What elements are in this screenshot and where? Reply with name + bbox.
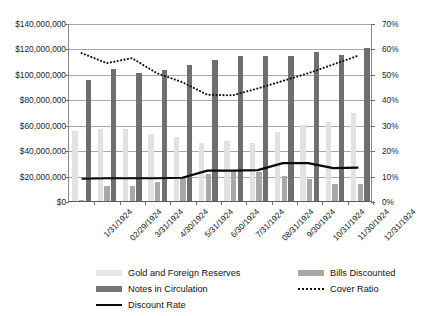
y-axis-right-tick-label: 70% (382, 20, 399, 28)
y-axis-left-tick-label: $80,000,000 (4, 96, 66, 104)
line-series-overlay (69, 24, 371, 201)
legend-swatch-gold-icon (96, 270, 122, 276)
y-axis-right-tick-label: 60% (382, 45, 399, 53)
discount-rate-line (82, 163, 359, 179)
x-axis-tick (322, 201, 323, 205)
y-axis-right-tick-label: 40% (382, 96, 399, 104)
x-axis-tick (272, 201, 273, 205)
legend-label: Notes in Circulation (128, 284, 208, 294)
legend-dotted-line-icon (298, 288, 324, 290)
y-axis-left: $0$20,000,000$40,000,000$60,000,000$80,0… (0, 0, 66, 210)
x-axis-tick (170, 201, 171, 205)
y-axis-right-tick-label: 0% (382, 198, 394, 206)
chart-container: $0$20,000,000$40,000,000$60,000,000$80,0… (0, 0, 425, 316)
x-axis-tick (94, 201, 95, 205)
legend-label: Bills Discounted (330, 268, 395, 278)
x-axis-tick (297, 201, 298, 205)
legend-solid-line-icon (96, 304, 122, 307)
legend-item-bills-discounted: Bills Discounted (298, 268, 395, 278)
y-axis-left-tick-label: $40,000,000 (4, 147, 66, 155)
legend-item-cover-ratio: Cover Ratio (298, 284, 379, 294)
x-axis-tick (145, 201, 146, 205)
legend-swatch-bills-icon (298, 270, 324, 276)
x-axis-tick (246, 201, 247, 205)
y-axis-right-tick-label: 30% (382, 122, 399, 130)
legend-label: Discount Rate (128, 300, 186, 310)
legend-swatch-notes-icon (96, 286, 122, 292)
x-axis-tick (120, 201, 121, 205)
legend-label: Cover Ratio (330, 284, 379, 294)
legend-item-notes-in-circulation: Notes in Circulation (96, 284, 208, 294)
y-axis-left-tick-label: $0 (4, 198, 66, 206)
cover-ratio-line (82, 53, 359, 95)
legend-item-gold-and-foreign-reserves: Gold and Foreign Reserves (96, 268, 240, 278)
y-axis-left-tick (65, 202, 69, 203)
y-axis-right: 0%10%20%30%40%50%60%70% (374, 0, 424, 210)
x-axis-tick (221, 201, 222, 205)
x-axis-tick (373, 201, 374, 205)
y-axis-left-tick-label: $140,000,000 (4, 20, 66, 28)
y-axis-right-tick-label: 50% (382, 71, 399, 79)
y-axis-right-tick-label: 10% (382, 172, 399, 180)
y-axis-right-tick-label: 20% (382, 147, 399, 155)
x-axis-tick (196, 201, 197, 205)
chart-legend: Gold and Foreign Reserves Bills Discount… (96, 268, 396, 314)
y-axis-left-tick-label: $60,000,000 (4, 122, 66, 130)
y-axis-left-tick-label: $100,000,000 (4, 71, 66, 79)
plot-area (68, 24, 372, 202)
legend-label: Gold and Foreign Reserves (128, 268, 240, 278)
y-axis-left-tick-label: $120,000,000 (4, 45, 66, 53)
legend-item-discount-rate: Discount Rate (96, 300, 186, 310)
x-axis-tick (348, 201, 349, 205)
y-axis-left-tick-label: $20,000,000 (4, 172, 66, 180)
